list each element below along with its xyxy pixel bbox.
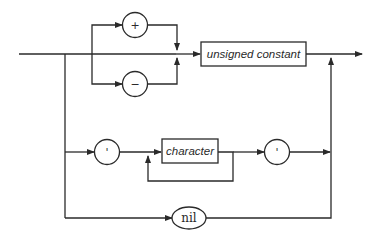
syntax-diagram: + − unsigned constant ' character ' n	[0, 0, 381, 246]
minus-label: −	[130, 78, 139, 91]
nil-label: nil	[181, 211, 197, 225]
unsigned-constant-box: unsigned constant	[201, 42, 306, 66]
character-box: character	[162, 139, 218, 163]
quote-close-label: '	[275, 146, 278, 159]
nil-terminal: nil	[172, 207, 206, 229]
quote-open-label: '	[105, 146, 108, 159]
character-label: character	[166, 145, 215, 157]
minus-terminal: −	[123, 72, 148, 97]
quote-close-terminal: '	[265, 140, 290, 165]
quote-open-terminal: '	[95, 140, 120, 165]
plus-label: +	[130, 19, 139, 32]
plus-terminal: +	[123, 13, 148, 38]
unsigned-constant-label: unsigned constant	[207, 48, 301, 60]
right-return-line	[206, 58, 331, 218]
